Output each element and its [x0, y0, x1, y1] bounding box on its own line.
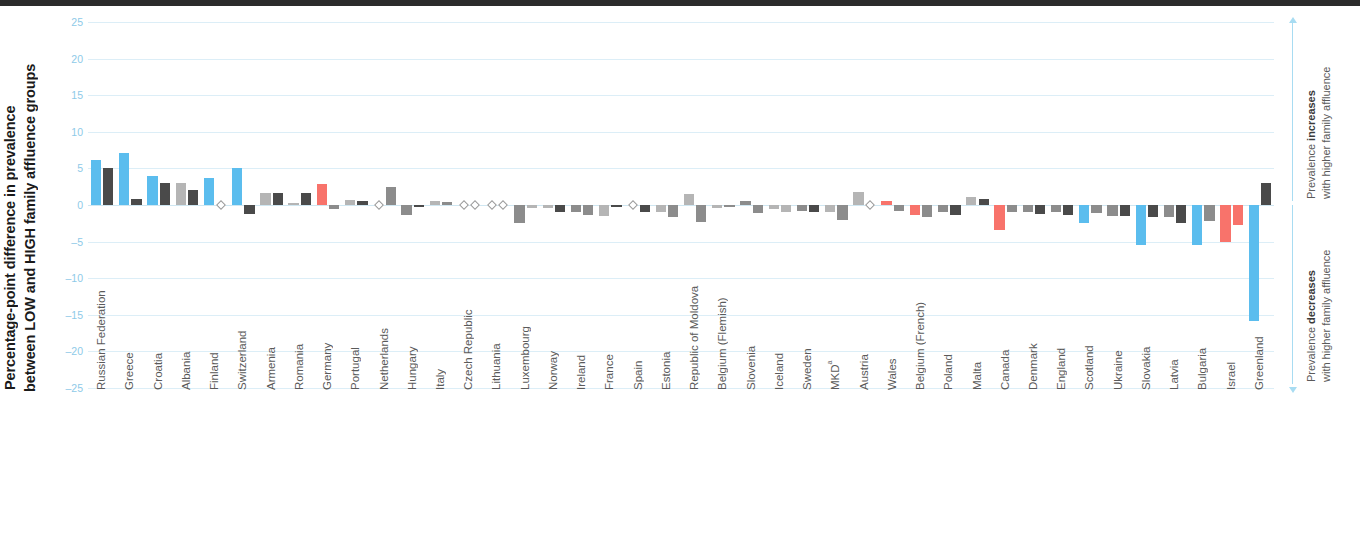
increase-arrow-line	[1292, 22, 1293, 201]
x-axis-label: Netherlands	[378, 328, 390, 390]
x-axis-label: MKDa	[826, 361, 841, 390]
bar	[357, 201, 367, 205]
x-axis-label: Finland	[209, 352, 221, 390]
decrease-strong: decreases	[1305, 270, 1317, 324]
y-tick-label--20: –20	[65, 345, 83, 357]
x-axis-label: Russian Federation	[96, 290, 108, 390]
bar	[1063, 205, 1073, 215]
bars-layer	[88, 22, 1274, 388]
bar	[684, 194, 694, 205]
bar	[543, 205, 553, 208]
bar	[119, 153, 129, 205]
bar	[317, 184, 327, 205]
zero-diamond-marker	[498, 200, 508, 210]
bar	[853, 192, 863, 205]
bar	[527, 205, 537, 208]
x-axis-label: Austria	[858, 354, 870, 390]
chart-container: Percentage-point difference in prevalenc…	[0, 6, 1360, 550]
y-tick-label--25: –25	[65, 382, 83, 394]
bar-group	[430, 22, 453, 388]
bar-group	[740, 22, 763, 388]
x-axis-label: Portugal	[350, 347, 362, 390]
x-axis-label: Albania	[180, 352, 192, 390]
bar	[781, 205, 791, 212]
bar	[938, 205, 948, 212]
x-axis-label: Greece	[124, 352, 136, 390]
bar-group	[401, 22, 424, 388]
y-axis-title: Percentage-point difference in prevalenc…	[0, 6, 60, 396]
bar	[176, 183, 186, 205]
x-axis-label: Republic of Moldova	[689, 286, 701, 390]
bar-group	[543, 22, 566, 388]
bar-group	[204, 22, 227, 388]
x-axis-label: Italy	[434, 369, 446, 390]
x-axis-label: Latvia	[1169, 359, 1181, 390]
bar	[1148, 205, 1158, 217]
bar	[583, 205, 593, 215]
bar	[288, 203, 298, 205]
bar	[188, 190, 198, 205]
bar	[1249, 205, 1259, 321]
x-axis-label: Luxembourg	[519, 326, 531, 390]
y-tick-label--5: –5	[71, 236, 83, 248]
bar	[430, 201, 440, 205]
x-axis-label: Ukraine	[1112, 350, 1124, 390]
bar	[656, 205, 666, 212]
bar-group	[825, 22, 848, 388]
bar-group	[881, 22, 904, 388]
zero-diamond-marker	[459, 200, 469, 210]
x-axis-label: Switzerland	[237, 331, 249, 390]
bar-group	[1023, 22, 1046, 388]
bar	[797, 205, 807, 211]
bar	[979, 199, 989, 205]
bar-group	[1220, 22, 1243, 388]
bar-group	[938, 22, 961, 388]
bar	[922, 205, 932, 217]
y-tick-label-25: 25	[71, 16, 83, 28]
bar	[401, 205, 411, 215]
y-tick-label--10: –10	[65, 272, 83, 284]
y-tick-label-5: 5	[77, 162, 83, 174]
bar	[769, 205, 779, 209]
bar	[571, 205, 581, 212]
bar-group	[599, 22, 622, 388]
x-axis-label: Iceland	[773, 353, 785, 390]
x-axis-label: Israel	[1225, 362, 1237, 390]
bar	[1233, 205, 1243, 225]
bar	[1192, 205, 1202, 245]
x-axis-label: Denmark	[1027, 343, 1039, 390]
bar-group	[571, 22, 594, 388]
bar-group	[1164, 22, 1187, 388]
decrease-annotation: Prevalence decreases with higher family …	[1304, 211, 1334, 382]
bar-group	[966, 22, 989, 388]
bar	[555, 205, 565, 212]
decrease-prefix: Prevalence	[1305, 324, 1317, 382]
bar	[1091, 205, 1101, 213]
x-axis-label: Belgium (Flemish)	[717, 297, 729, 390]
zero-diamond-marker	[865, 200, 875, 210]
x-axis-label: Scotland	[1084, 345, 1096, 390]
bar	[147, 176, 157, 205]
bar	[837, 205, 847, 220]
increase-strong: increases	[1305, 90, 1317, 141]
zero-diamond-marker	[487, 200, 497, 210]
bar	[514, 205, 524, 223]
bar-group	[769, 22, 792, 388]
x-axis-label: France	[604, 354, 616, 390]
bar	[329, 205, 339, 209]
x-axis-label: Spain	[632, 361, 644, 390]
bar	[1079, 205, 1089, 223]
bar	[825, 205, 835, 212]
x-axis-label: Czech Republic	[463, 309, 475, 390]
x-axis-label: Bulgaria	[1197, 348, 1209, 390]
x-axis-label: Ireland	[576, 355, 588, 390]
x-axis-label: Sweden	[802, 348, 814, 390]
bar	[724, 205, 734, 207]
y-axis-title-line-1: Percentage-point difference in prevalenc…	[2, 20, 18, 390]
bar	[668, 205, 678, 217]
bar-group	[1192, 22, 1215, 388]
x-axis-label: Slovakia	[1140, 347, 1152, 390]
x-axis-label: Germany	[322, 343, 334, 390]
y-tick-label-10: 10	[71, 126, 83, 138]
bar	[696, 205, 706, 222]
